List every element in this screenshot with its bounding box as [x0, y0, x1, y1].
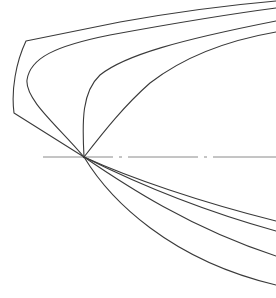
- lower-curve-1: [84, 157, 276, 221]
- convergence-point: [83, 156, 85, 158]
- upper-curve-4: [84, 32, 276, 157]
- lower-curve-3: [84, 157, 276, 256]
- diagram-canvas: [0, 0, 276, 298]
- upper-curve-3: [83, 21, 276, 157]
- curve-diagram: [0, 0, 276, 298]
- outer-boundary-curve: [13, 1, 276, 157]
